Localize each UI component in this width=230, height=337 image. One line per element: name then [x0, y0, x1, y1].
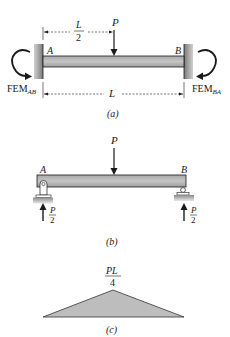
figure-b-simple-beam	[33, 148, 194, 221]
right-fixed-support	[184, 44, 193, 79]
end-label-b-b: B	[181, 164, 187, 175]
half-span-numerator: L	[75, 19, 82, 30]
peak-moment-numerator: PL	[105, 265, 118, 276]
moment-ba-arrow-icon	[198, 50, 216, 76]
roller-support-icon	[174, 188, 194, 201]
peak-moment-denominator: 4	[110, 277, 115, 288]
caption-b: (b)	[106, 236, 118, 248]
moment-diagram	[43, 290, 184, 317]
fem-ab-label: FEMAB	[7, 83, 37, 96]
beam-diagrams: P L 2 A B L FEMAB FEMBA (a) P A B	[0, 0, 230, 337]
caption-a: (a)	[107, 108, 119, 120]
half-span-denominator: 2	[76, 32, 81, 43]
load-label-a: P	[111, 16, 119, 28]
reaction-a-numerator: P	[49, 205, 56, 215]
end-label-a: A	[46, 45, 54, 56]
reaction-a-denominator: 2	[50, 215, 55, 225]
left-fixed-support	[34, 44, 43, 79]
end-label-a-b: A	[39, 164, 47, 175]
load-label-b: P	[110, 134, 118, 146]
reaction-b-denominator: 2	[191, 215, 196, 225]
beam-b	[37, 175, 186, 187]
end-label-b: B	[175, 45, 181, 56]
reaction-b-numerator: P	[190, 205, 197, 215]
moment-ab-arrow-icon	[12, 50, 30, 76]
caption-c: (c)	[106, 324, 118, 336]
fem-ba-label: FEMBA	[192, 83, 222, 96]
beam-a	[43, 56, 184, 67]
span-label: L	[108, 87, 115, 99]
